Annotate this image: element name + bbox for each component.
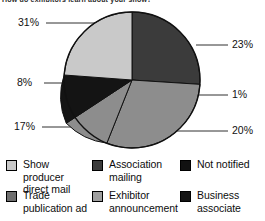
legend-item-show-producer-direct-mail[interactable]: Show producer direct mail bbox=[0, 158, 90, 188]
plot-area: 31% 23% 1% 20% 8% 17% bbox=[0, 4, 265, 156]
legend-swatch-not-notified bbox=[180, 160, 191, 171]
legend-item-business-associate[interactable]: Business associate bbox=[176, 189, 265, 219]
pie-chart-figure: How do exhibitors learn about your show? bbox=[0, 0, 265, 221]
legend-label-exhibitor-announcement: Exhibitor announcement bbox=[109, 189, 178, 214]
pie-label-20: 20% bbox=[232, 125, 253, 136]
pie-label-8: 17% bbox=[14, 121, 35, 132]
legend-item-not-notified[interactable]: Not notified bbox=[176, 158, 265, 188]
legend-swatch-exhibitor-announcement bbox=[92, 191, 103, 202]
chart-legend: Show producer direct mail Association ma… bbox=[0, 157, 265, 221]
legend-label-business-associate: Business associate bbox=[197, 189, 241, 214]
page-title: How do exhibitors learn about your show? bbox=[2, 0, 152, 3]
pie-slices bbox=[61, 12, 200, 148]
legend-row: Trade publication ad Exhibitor announcem… bbox=[0, 189, 265, 219]
pie-svg bbox=[0, 4, 265, 156]
legend-label-association-mailing: Association mailing bbox=[109, 158, 162, 183]
pie-label-17: 8% bbox=[17, 77, 32, 88]
legend-swatch-show-producer-direct-mail bbox=[6, 160, 17, 171]
legend-row: Show producer direct mail Association ma… bbox=[0, 158, 265, 188]
pie-slice-association-mailing[interactable] bbox=[132, 12, 200, 88]
legend-item-exhibitor-announcement[interactable]: Exhibitor announcement bbox=[90, 189, 176, 219]
legend-swatch-business-associate bbox=[180, 191, 191, 202]
legend-item-trade-publication-ad[interactable]: Trade publication ad bbox=[0, 189, 90, 219]
legend-label-not-notified: Not notified bbox=[197, 158, 250, 171]
pie-slice-show-producer-direct-mail[interactable] bbox=[64, 12, 132, 80]
legend-swatch-trade-publication-ad bbox=[6, 191, 17, 202]
legend-item-association-mailing[interactable]: Association mailing bbox=[90, 158, 176, 188]
pie-label-23: 23% bbox=[232, 39, 253, 50]
pie-label-31: 31% bbox=[18, 17, 39, 28]
legend-label-trade-publication-ad: Trade publication ad bbox=[23, 189, 87, 214]
pie-label-1: 1% bbox=[232, 89, 247, 100]
legend-swatch-association-mailing bbox=[92, 160, 103, 171]
